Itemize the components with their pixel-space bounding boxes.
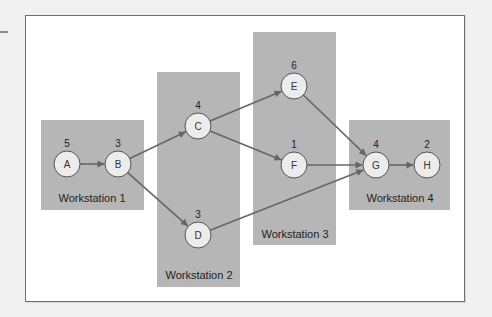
workstation-label: Workstation 3 — [261, 228, 328, 240]
task-label: C — [194, 121, 201, 132]
workstation-label: Workstation 2 — [165, 269, 232, 281]
task-time: 3 — [115, 138, 121, 149]
workstation-label: Workstation 4 — [366, 192, 433, 204]
nodes-layer: A5B3C4D3E6F1G4H2 — [54, 60, 440, 248]
task-time: 4 — [373, 139, 379, 150]
task-label: H — [423, 160, 430, 171]
workstations-layer: Workstation 1Workstation 2Workstation 3W… — [41, 32, 450, 287]
task-label: D — [194, 230, 201, 241]
task-time: 1 — [291, 139, 297, 150]
task-time: 6 — [291, 60, 297, 71]
task-time: 3 — [195, 209, 201, 220]
precedence-diagram: Workstation 1Workstation 2Workstation 3W… — [0, 0, 492, 317]
task-label: B — [115, 159, 122, 170]
task-label: A — [64, 159, 71, 170]
workstation-label: Workstation 1 — [58, 192, 125, 204]
task-time: 5 — [64, 138, 70, 149]
task-label: G — [372, 160, 380, 171]
task-label: E — [291, 81, 298, 92]
task-label: F — [291, 160, 297, 171]
task-time: 4 — [195, 100, 201, 111]
task-time: 2 — [424, 139, 430, 150]
